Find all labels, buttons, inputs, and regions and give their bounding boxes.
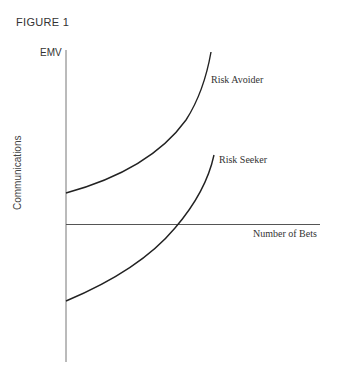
risk-seeker-curve [66,155,214,301]
risk-avoider-label: Risk Avoider [211,74,263,85]
risk-avoider-curve [66,52,211,193]
chart-plot [0,0,337,381]
risk-seeker-label: Risk Seeker [219,154,267,165]
x-axis-label: Number of Bets [253,228,317,239]
